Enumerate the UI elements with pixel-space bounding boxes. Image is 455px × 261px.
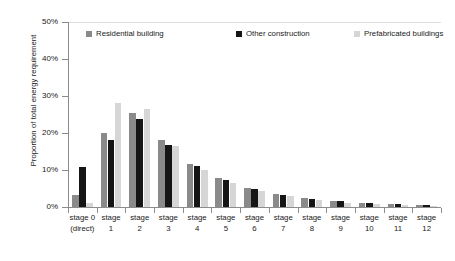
bar <box>330 201 337 207</box>
y-tick-label: 20% <box>26 129 58 137</box>
bars-layer <box>68 22 441 207</box>
bar <box>72 195 79 207</box>
bar <box>165 145 172 207</box>
bar <box>101 133 108 207</box>
bar <box>273 194 280 207</box>
bar <box>201 170 208 207</box>
chart-figure: Proportion of total energy requirement 0… <box>0 0 455 261</box>
bar <box>359 203 366 207</box>
bar <box>337 201 344 207</box>
bar <box>402 205 409 207</box>
bar <box>215 178 222 207</box>
bar <box>316 200 323 207</box>
bar <box>395 204 402 207</box>
y-tick-label: 40% <box>26 55 58 63</box>
bar <box>366 203 373 207</box>
bar <box>301 198 308 207</box>
bar <box>416 205 423 207</box>
bar <box>187 164 194 207</box>
y-tick-label: 30% <box>26 92 58 100</box>
bar <box>430 206 437 207</box>
bar <box>115 103 122 207</box>
bar <box>309 199 316 208</box>
bar <box>136 119 143 207</box>
bar <box>258 191 265 207</box>
bar <box>388 204 395 207</box>
bar <box>194 166 201 207</box>
bar <box>251 189 258 207</box>
y-tick-label: 0% <box>26 203 58 211</box>
bar <box>86 203 93 207</box>
bar <box>108 140 115 207</box>
x-tick-label-line1: stage <box>406 213 447 224</box>
bar <box>423 205 430 207</box>
bar <box>129 113 136 207</box>
bar <box>280 195 287 207</box>
bar <box>373 204 380 207</box>
x-axis-line <box>68 207 441 208</box>
x-tick-label: stage12 <box>406 213 447 234</box>
x-axis-labels: stage 0(direct)stage1stage2stage3stage4s… <box>68 213 441 253</box>
y-tick-label: 10% <box>26 166 58 174</box>
bar <box>244 188 251 207</box>
bar <box>79 167 86 207</box>
bar <box>158 140 165 207</box>
bar <box>230 183 237 207</box>
bar <box>223 180 230 207</box>
bar <box>287 196 294 207</box>
bar <box>172 146 179 207</box>
x-tick-label-line2: 12 <box>406 224 447 235</box>
y-tick-label: 50% <box>26 18 58 26</box>
bar <box>344 203 351 207</box>
bar <box>144 109 151 207</box>
